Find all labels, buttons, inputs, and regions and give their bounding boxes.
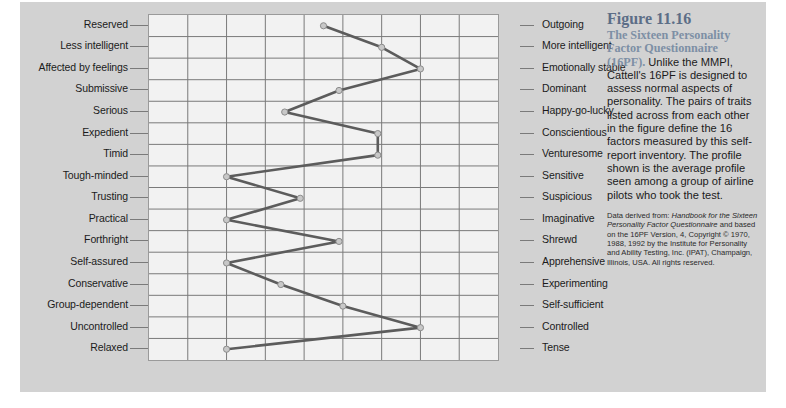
left-tick-mark xyxy=(130,240,148,241)
right-tick-mark xyxy=(520,154,534,155)
figure-caption: Figure 11.16 The Sixteen Personality Fac… xyxy=(607,10,759,386)
profile-data-point xyxy=(223,346,229,352)
profile-data-point xyxy=(282,109,288,115)
right-tick-mark xyxy=(520,219,534,220)
profile-line-series xyxy=(149,15,498,360)
profile-data-point xyxy=(340,303,346,309)
left-trait-label: Expedient xyxy=(82,127,128,138)
profile-chart: ReservedLess intelligentAffected by feel… xyxy=(20,2,610,392)
profile-data-point xyxy=(278,281,284,287)
right-tick-mark xyxy=(520,89,534,90)
left-tick-mark xyxy=(130,219,148,220)
right-trait-label: Suspicious xyxy=(542,191,592,202)
source-prefix: Data derived from: xyxy=(607,211,672,220)
right-tick-mark xyxy=(520,348,534,349)
left-trait-label: Timid xyxy=(103,148,128,159)
right-tick-mark xyxy=(520,327,534,328)
profile-data-point xyxy=(375,152,381,158)
right-trait-label: Controlled xyxy=(542,321,589,332)
left-trait-label: Less intelligent xyxy=(60,40,128,51)
left-trait-label: Trusting xyxy=(91,191,128,202)
right-trait-label: Conscientious xyxy=(542,127,607,138)
caption-body: The Sixteen Personality Factor Questionn… xyxy=(607,29,759,202)
right-trait-label: Dominant xyxy=(542,83,586,94)
right-tick-mark xyxy=(520,262,534,263)
figure-number-title: Figure 11.16 xyxy=(607,10,759,27)
left-trait-label: Self-assured xyxy=(70,256,128,267)
right-trait-label: Venturesome xyxy=(542,148,603,159)
right-tick-mark xyxy=(520,68,534,69)
left-tick-mark xyxy=(130,25,148,26)
profile-data-point xyxy=(379,44,385,50)
profile-data-point xyxy=(297,195,303,201)
profile-data-point xyxy=(375,130,381,136)
profile-data-point xyxy=(417,325,423,331)
left-trait-label: Submissive xyxy=(75,83,128,94)
left-tick-mark xyxy=(130,111,148,112)
left-tick-mark xyxy=(130,327,148,328)
left-trait-label: Reserved xyxy=(84,19,128,30)
profile-polyline xyxy=(227,26,421,349)
left-trait-label: Tough-minded xyxy=(63,170,128,181)
right-tick-mark xyxy=(520,111,534,112)
left-tick-mark xyxy=(130,348,148,349)
right-trait-label: Sensitive xyxy=(542,170,584,181)
right-tick-mark xyxy=(520,284,534,285)
right-tick-mark xyxy=(520,133,534,134)
right-tick-mark xyxy=(520,176,534,177)
right-tick-mark xyxy=(520,240,534,241)
caption-source-note: Data derived from: Handbook for the Sixt… xyxy=(607,211,759,267)
right-tick-mark xyxy=(520,305,534,306)
profile-data-point xyxy=(320,23,326,29)
right-trait-label: Outgoing xyxy=(542,19,584,30)
left-trait-label: Practical xyxy=(89,213,128,224)
right-trait-label: Self-sufficient xyxy=(542,299,603,310)
profile-data-point xyxy=(223,217,229,223)
profile-data-point xyxy=(223,174,229,180)
left-tick-mark xyxy=(130,284,148,285)
right-trait-label: Experimenting xyxy=(542,278,608,289)
left-trait-label: Conservative xyxy=(68,278,128,289)
profile-data-point xyxy=(223,260,229,266)
left-tick-mark xyxy=(130,133,148,134)
left-tick-mark xyxy=(130,197,148,198)
profile-data-point xyxy=(336,238,342,244)
profile-data-point xyxy=(336,87,342,93)
left-tick-mark xyxy=(130,154,148,155)
right-trait-label: Apprehensive xyxy=(542,256,605,267)
profile-data-point xyxy=(417,66,423,72)
right-trait-label: More intelligent xyxy=(542,40,612,51)
caption-body-text: Unlike the MMPI, Cattell's 16PF is desig… xyxy=(607,56,754,201)
left-tick-mark xyxy=(130,68,148,69)
right-tick-mark xyxy=(520,46,534,47)
left-tick-mark xyxy=(130,262,148,263)
right-trait-label: Shrewd xyxy=(542,234,577,245)
right-trait-label: Happy-go-lucky xyxy=(542,105,614,116)
left-axis-labels: ReservedLess intelligentAffected by feel… xyxy=(20,2,128,392)
figure-panel: ReservedLess intelligentAffected by feel… xyxy=(20,2,766,392)
left-trait-label: Forthright xyxy=(84,234,128,245)
left-trait-label: Serious xyxy=(93,105,128,116)
left-tick-mark xyxy=(130,176,148,177)
right-tick-mark xyxy=(520,197,534,198)
left-trait-label: Group-dependent xyxy=(47,299,128,310)
left-trait-label: Relaxed xyxy=(90,342,128,353)
right-trait-label: Imaginative xyxy=(542,213,595,224)
left-tick-mark xyxy=(130,46,148,47)
left-tick-mark xyxy=(130,305,148,306)
plot-area xyxy=(148,14,499,361)
right-trait-label: Tense xyxy=(542,342,570,353)
left-trait-label: Affected by feelings xyxy=(39,62,128,73)
left-tick-mark xyxy=(130,89,148,90)
left-trait-label: Uncontrolled xyxy=(70,321,128,332)
right-tick-mark xyxy=(520,25,534,26)
